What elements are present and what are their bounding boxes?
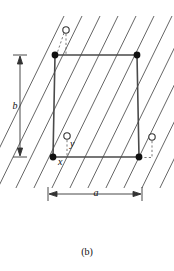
unit-cell-outline bbox=[53, 55, 139, 157]
lattice-parameter-a-label: a bbox=[89, 188, 103, 198]
axis-x-label: x bbox=[58, 157, 62, 167]
slip-plane-trace bbox=[48, 16, 136, 196]
figure-container: b a x y (b) bbox=[0, 0, 174, 271]
corner-atom-bottom-right bbox=[136, 154, 143, 161]
open-atom-top bbox=[63, 27, 69, 33]
slip-plane-trace bbox=[12, 16, 100, 196]
dimension-b-arrow-up bbox=[17, 56, 22, 64]
dimension-a-arrow-right bbox=[133, 191, 141, 196]
dimension-b-arrow-down bbox=[17, 148, 22, 156]
unit-cell-diagram bbox=[0, 0, 174, 271]
lattice-parameter-b-label: b bbox=[8, 101, 22, 111]
corner-atom-top-right bbox=[134, 52, 141, 59]
figure-caption: (b) bbox=[0, 247, 174, 257]
dashed-top-diagonal bbox=[57, 33, 65, 55]
slip-plane-trace bbox=[66, 16, 154, 196]
open-atom-group bbox=[63, 27, 155, 140]
slip-plane-trace bbox=[30, 16, 118, 196]
slip-plane-trace-group bbox=[0, 16, 174, 196]
dimension-a-arrow-left bbox=[49, 191, 57, 196]
corner-atom-bottom-left bbox=[50, 154, 57, 161]
slip-plane-trace bbox=[84, 16, 172, 196]
slip-plane-trace bbox=[138, 16, 174, 196]
open-atom-right bbox=[149, 134, 155, 140]
axis-y-label: y bbox=[70, 139, 74, 149]
corner-atom-top-left bbox=[52, 52, 59, 59]
